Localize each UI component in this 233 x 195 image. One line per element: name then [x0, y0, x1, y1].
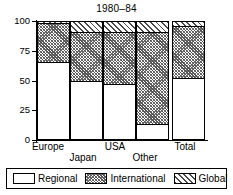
- plot-area: 100 75 50 25 0: [36, 22, 206, 140]
- bar-segment-other-global: [136, 21, 169, 33]
- bar-segment-total-regional: [172, 78, 205, 140]
- x-label-japan: Japan: [55, 152, 111, 163]
- legend-label-global: Global: [199, 173, 228, 184]
- y-label-25: 25: [0, 104, 30, 115]
- legend-swatch-regional-icon: [13, 173, 35, 184]
- bar-group: [37, 22, 206, 140]
- bar-segment-europe-regional: [37, 62, 70, 140]
- bar-japan: [70, 22, 103, 140]
- legend-item-international: International: [85, 173, 165, 184]
- legend-label-international: International: [110, 173, 165, 184]
- x-label-total: Total: [160, 141, 210, 152]
- bar-segment-total-global: [172, 21, 205, 27]
- y-label-50: 50: [0, 75, 30, 86]
- bar-usa: [103, 22, 136, 140]
- bar-europe: [37, 22, 70, 140]
- bar-segment-japan-regional: [70, 81, 103, 140]
- x-axis-labels: Europe Japan USA Other Total: [0, 140, 233, 166]
- bar-segment-other-regional: [136, 124, 169, 140]
- legend-item-global: Global: [174, 173, 228, 184]
- x-label-europe: Europe: [20, 141, 76, 152]
- bar-segment-usa-regional: [103, 84, 136, 140]
- legend-item-regional: Regional: [13, 173, 77, 184]
- y-label-75: 75: [0, 45, 30, 56]
- chart-title: 1980–84: [0, 3, 233, 14]
- y-label-100: 100: [0, 15, 30, 26]
- bar-segment-japan-international: [70, 32, 103, 83]
- bar-segment-total-international: [172, 26, 205, 79]
- bar-segment-europe-international: [37, 23, 70, 63]
- legend-swatch-international-icon: [85, 173, 107, 184]
- chart-root: 1980–84 100 75 50 25 0 Europe Japan USA …: [0, 0, 233, 195]
- x-label-other: Other: [120, 152, 170, 163]
- bar-other: [136, 22, 169, 140]
- bar-segment-japan-global: [70, 21, 103, 33]
- bar-segment-usa-global: [103, 21, 136, 33]
- x-label-usa: USA: [92, 141, 138, 152]
- bar-segment-other-international: [136, 32, 169, 125]
- bar-total: [172, 22, 205, 140]
- bar-segment-usa-international: [103, 32, 136, 85]
- chart-legend: Regional International Global: [6, 168, 227, 189]
- bar-segment-europe-global: [37, 21, 70, 24]
- legend-label-regional: Regional: [38, 173, 77, 184]
- legend-swatch-global-icon: [174, 173, 196, 184]
